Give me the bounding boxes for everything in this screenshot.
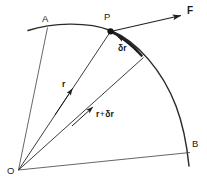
label-point-o: O — [7, 166, 15, 176]
physics-diagram-figure: A P B O F r δr r+δr — [0, 0, 207, 183]
label-point-a: A — [42, 14, 49, 24]
diagram-canvas — [0, 0, 207, 183]
label-point-p: P — [104, 12, 111, 22]
chord-o-to-b — [19, 153, 191, 171]
radius-plus-delta-vector-arrowhead — [72, 107, 93, 126]
label-delta-r: δr — [118, 44, 126, 53]
radius-plus-delta-vector-line — [19, 58, 144, 171]
label-force-f: F — [187, 6, 193, 16]
radius-vector-arrowhead — [55, 89, 73, 116]
force-vector-arrow — [111, 16, 182, 32]
label-delta-r-latin: r — [123, 43, 126, 53]
label-radius-r: r — [62, 80, 65, 89]
point-marker-p — [107, 28, 113, 34]
trajectory-arc — [28, 24, 189, 166]
label-r-plus-delta-r: r+δr — [96, 110, 114, 119]
label-r-plus-delta-r-latin: r — [110, 109, 113, 119]
label-point-b: B — [192, 139, 199, 149]
